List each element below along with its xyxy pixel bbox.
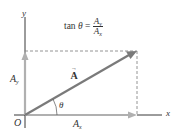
- fraction-denominator: Ax: [93, 27, 103, 36]
- vector-a-letter: A: [70, 70, 77, 81]
- vector-a: [25, 55, 129, 115]
- vector-a-label: → A: [69, 66, 79, 81]
- angle-arc: [53, 99, 57, 115]
- formula-fraction: Ay Ax: [93, 17, 103, 36]
- ay-label: Ay: [10, 74, 19, 84]
- tan-formula: tan θ = Ay Ax: [64, 17, 103, 36]
- formula-theta: θ: [78, 21, 83, 31]
- ax-label: Ax: [73, 119, 82, 129]
- origin-label: O: [14, 118, 21, 128]
- theta-label: θ: [59, 101, 63, 110]
- y-axis-label: y: [22, 9, 26, 18]
- x-axis-label: x: [166, 109, 170, 118]
- ay-arrowhead: [22, 51, 29, 60]
- tan-func: tan: [64, 21, 76, 31]
- ax-arrowhead: [128, 112, 137, 119]
- formula-equals: =: [85, 21, 90, 31]
